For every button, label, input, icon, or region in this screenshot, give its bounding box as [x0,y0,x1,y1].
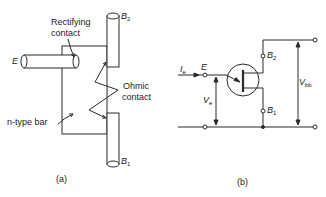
b1-label-a: B1 [121,157,130,167]
rectifying-label-line2: contact [51,29,80,38]
b2-cylinder [107,13,119,67]
ie-arrow-icon [194,73,199,77]
emitter-label-a: E [12,57,18,66]
vbb-label: Vbb [299,78,312,88]
b2-label-b: B2 [267,51,276,61]
ujt-figure: E Rectifying contact B2 B1 Ohmic contact… [0,0,326,197]
b1-terminal [261,109,265,113]
n-type-bar-label: n-type bar [7,118,48,127]
emitter-terminal [203,73,207,77]
ohmic-label-line2: contact [122,93,151,102]
caption-a: (a) [56,175,67,184]
ohmic-leader [89,62,118,118]
top-output-terminal [313,38,317,42]
b1-label-b: B1 [267,106,276,116]
b1-cylinder [107,113,119,167]
bottom-input-terminal [203,125,207,129]
ve-label: Ve [203,96,212,106]
b2-terminal [261,54,265,58]
emitter-label-b: E [201,63,207,72]
n-type-leader [58,114,73,124]
emitter-cylinder [21,55,79,68]
rectifying-label-line1: Rectifying [51,18,91,27]
b2-label-a: B2 [121,12,130,22]
ie-label: Ie [180,65,186,75]
bottom-output-terminal [313,125,317,129]
ohmic-label-line1: Ohmic [123,82,149,91]
caption-b: (b) [237,178,248,187]
diagram-drawing [0,0,326,197]
panel-b-circuit [178,38,317,129]
